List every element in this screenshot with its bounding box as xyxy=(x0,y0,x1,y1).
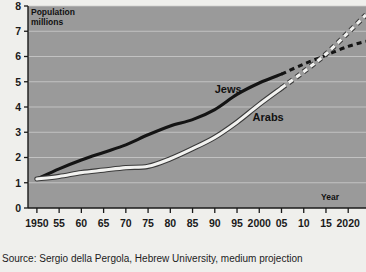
y-tick-label: 6 xyxy=(15,50,21,62)
x-tick-label: 95 xyxy=(231,217,243,229)
y-axis-title-line1: Population xyxy=(31,7,75,17)
x-tick-label: 2020 xyxy=(337,217,361,229)
x-tick-label: 15 xyxy=(320,217,332,229)
y-tick-label: 7 xyxy=(15,25,21,37)
y-tick-label: 2 xyxy=(15,151,21,163)
x-tick-label: 85 xyxy=(187,217,199,229)
x-tick-label: 05 xyxy=(276,217,288,229)
x-tick-label: 1950 xyxy=(25,217,49,229)
y-axis-title-line2: millions xyxy=(31,17,63,27)
x-tick-label: 55 xyxy=(53,217,65,229)
x-tick-label: 70 xyxy=(120,217,132,229)
x-tick-label: 60 xyxy=(76,217,88,229)
y-tick-label: 5 xyxy=(15,76,21,88)
y-tick-label: 3 xyxy=(15,126,21,138)
population-projection-chart: 012345678 195055606570758085909520000510… xyxy=(0,0,366,272)
series-label-arabs: Arabs xyxy=(253,111,284,123)
x-tick-label: 75 xyxy=(142,217,154,229)
x-tick-labels: 195055606570758085909520000510152020 xyxy=(25,208,360,229)
y-tick-label: 8 xyxy=(15,0,21,12)
chart-canvas: 012345678 195055606570758085909520000510… xyxy=(0,0,366,272)
y-tick-label: 0 xyxy=(15,202,21,214)
x-axis-title: Year xyxy=(321,192,340,202)
source-note: Source: Sergio della Pergola, Hebrew Uni… xyxy=(2,253,303,264)
y-tick-label: 1 xyxy=(15,177,21,189)
y-tick-labels: 012345678 xyxy=(15,0,28,214)
y-tick-label: 4 xyxy=(15,101,21,113)
x-tick-label: 90 xyxy=(209,217,221,229)
x-tick-label: 2000 xyxy=(248,217,272,229)
x-tick-label: 65 xyxy=(98,217,110,229)
series-label-jews: Jews xyxy=(215,83,242,95)
x-tick-label: 10 xyxy=(298,217,310,229)
x-tick-label: 80 xyxy=(164,217,176,229)
